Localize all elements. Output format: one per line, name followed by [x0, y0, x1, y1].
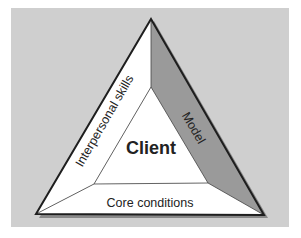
center-label: Client	[126, 138, 176, 158]
triangle-diagram: Client Interpersonal skills Model Core c…	[0, 0, 301, 238]
side-label-bottom: Core conditions	[107, 196, 194, 210]
